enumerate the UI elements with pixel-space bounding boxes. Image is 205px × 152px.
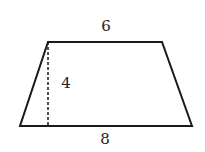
trapezoid-diagram: 6 4 8 xyxy=(0,0,205,152)
top-base-label: 6 xyxy=(101,17,111,35)
trapezoid-outline xyxy=(20,42,192,126)
height-label: 4 xyxy=(61,74,71,92)
bottom-base-label: 8 xyxy=(100,130,110,148)
